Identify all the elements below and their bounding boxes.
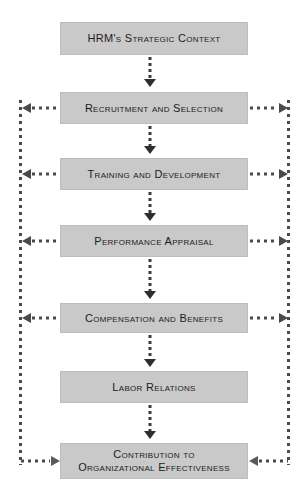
arrow-right-icon — [279, 236, 288, 246]
arrow-right-icon — [279, 169, 288, 179]
arrow-down-icon — [144, 146, 156, 154]
connector-strategic-context-to-recruitment — [148, 57, 152, 90]
feedback-branch-training-left — [22, 169, 60, 179]
node-recruitment-and-selection: Recruitment and Selection — [60, 92, 248, 124]
dotted-line — [32, 240, 60, 243]
feedback-branch-compensation-left — [22, 313, 60, 323]
arrow-left-icon — [22, 169, 31, 179]
dotted-line — [149, 126, 152, 146]
arrow-down-icon — [144, 213, 156, 221]
connector-labor-relations-to-contribution — [148, 405, 152, 441]
dotted-line — [149, 259, 152, 291]
dotted-line — [149, 335, 152, 359]
node-label: HRM's Strategic Context — [83, 32, 224, 45]
feedback-branch-recruitment-right — [250, 103, 288, 113]
dotted-line — [250, 240, 278, 243]
node-label: Performance Appraisal — [90, 235, 217, 248]
arrow-right-icon — [51, 456, 60, 466]
feedback-branch-contribution-left — [21, 456, 60, 466]
node-label: Compensation and Benefits — [81, 312, 227, 325]
node-label: Labor Relations — [108, 381, 199, 394]
arrow-right-icon — [279, 313, 288, 323]
feedback-branch-recruitment-left — [22, 103, 60, 113]
feedback-branch-performance-appraisal-right — [250, 236, 288, 246]
left-feedback-rail — [19, 100, 22, 465]
node-label: Recruitment and Selection — [81, 102, 227, 115]
arrow-left-icon — [22, 313, 31, 323]
connector-training-to-performance-appraisal — [148, 192, 152, 223]
dotted-line — [32, 317, 60, 320]
node-compensation-and-benefits: Compensation and Benefits — [60, 303, 248, 333]
arrow-down-icon — [144, 431, 156, 439]
node-performance-appraisal: Performance Appraisal — [60, 225, 248, 257]
dotted-line — [250, 317, 278, 320]
connector-compensation-to-labor-relations — [148, 335, 152, 369]
arrow-left-icon — [22, 103, 31, 113]
dotted-line — [32, 107, 60, 110]
node-hrm-strategic-context: HRM's Strategic Context — [60, 22, 248, 55]
feedback-branch-performance-appraisal-left — [22, 236, 60, 246]
arrow-left-icon — [249, 456, 258, 466]
node-label: Training and Development — [84, 168, 225, 181]
feedback-branch-compensation-right — [250, 313, 288, 323]
right-feedback-rail — [287, 100, 290, 465]
dotted-line — [149, 57, 152, 79]
feedback-branch-contribution-right — [249, 456, 288, 466]
feedback-branch-training-right — [250, 169, 288, 179]
node-contribution-to-organizational-effectiveness: Contribution to Organizational Effective… — [60, 443, 248, 479]
arrow-right-icon — [279, 103, 288, 113]
dotted-line — [21, 460, 50, 463]
node-training-and-development: Training and Development — [60, 158, 248, 190]
connector-recruitment-to-training — [148, 126, 152, 156]
dotted-line — [32, 173, 60, 176]
arrow-down-icon — [144, 79, 156, 87]
dotted-line — [149, 405, 152, 431]
dotted-line — [250, 107, 278, 110]
arrow-down-icon — [144, 359, 156, 367]
dotted-line — [259, 460, 288, 463]
dotted-line — [149, 192, 152, 213]
hrm-process-flow-diagram: HRM's Strategic Context Recruitment and … — [0, 0, 308, 498]
node-labor-relations: Labor Relations — [60, 371, 248, 403]
arrow-left-icon — [22, 236, 31, 246]
node-label: Contribution to Organizational Effective… — [74, 448, 234, 474]
connector-performance-appraisal-to-compensation — [148, 259, 152, 301]
dotted-line — [250, 173, 278, 176]
arrow-down-icon — [144, 291, 156, 299]
